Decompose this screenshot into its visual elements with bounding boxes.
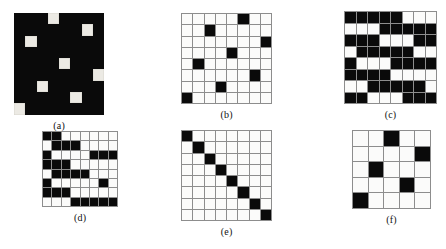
matrix-a-cell-8-1 [25,103,36,114]
matrix-d-cell-1-1 [52,141,61,150]
matrix-c-cell-6-1 [357,81,369,93]
matrix-d-cell-7-7 [109,198,118,207]
matrix-a-cell-3-5 [70,47,81,58]
matrix-b-cell-1-2 [205,25,216,36]
matrix-a-cell-1-0 [14,24,25,35]
panel-a: (a) [14,13,104,131]
matrix-e-cell-7-4 [227,210,238,221]
matrix-c-cell-1-2 [368,24,380,36]
matrix-a-cell-0-1 [25,13,36,24]
matrix-b-cell-5-2 [205,70,216,81]
matrix-c-cell-3-3 [380,47,392,59]
panel-c-caption: (c) [385,109,397,120]
matrix-a-cell-1-6 [82,24,93,35]
matrix-d-cell-6-5 [90,188,99,197]
matrix-c-cell-5-4 [391,70,403,82]
matrix-a-cell-6-7 [93,81,104,92]
matrix-c-cell-1-4 [391,24,403,36]
matrix-b-cell-3-2 [205,48,216,59]
matrix-c-cell-2-4 [391,35,403,47]
matrix-f-cell-1-1 [369,147,385,163]
matrix-e-cell-5-4 [227,187,238,198]
matrix-e-cell-1-2 [205,142,216,153]
matrix-c-cell-2-7 [426,35,438,47]
matrix-d-cell-7-5 [90,198,99,207]
matrix-a-cell-7-6 [82,92,93,103]
matrix-c-cell-5-7 [426,70,438,82]
matrix-d-cell-2-0 [43,151,52,160]
matrix-b-cell-7-4 [227,93,238,104]
matrix-b-cell-3-6 [250,48,261,59]
matrix-b-cell-3-7 [261,48,272,59]
matrix-e-cell-4-0 [182,176,193,187]
matrix-c-cell-3-6 [414,47,426,59]
matrix-a-cell-7-3 [48,92,59,103]
matrix-a-cell-0-3 [48,13,59,24]
matrix-c-cell-5-2 [368,70,380,82]
matrix-b-cell-6-1 [193,82,204,93]
matrix-c-cell-3-0 [345,47,357,59]
matrix-b-cell-4-7 [261,59,272,70]
matrix-d-cell-2-2 [62,151,71,160]
matrix-e-cell-5-7 [261,187,272,198]
matrix-d-cell-1-7 [109,141,118,150]
matrix-b-cell-7-5 [238,93,249,104]
matrix-d-cell-3-7 [109,160,118,169]
matrix-c-cell-0-4 [391,12,403,24]
matrix-b-cell-4-2 [205,59,216,70]
matrix-e-cell-2-4 [227,154,238,165]
matrix-f-cell-3-2 [384,178,400,194]
matrix-a-cell-6-6 [82,81,93,92]
matrix-c-cell-7-3 [380,93,392,105]
matrix-d-cell-5-7 [109,179,118,188]
matrix-f-cell-4-1 [369,193,385,209]
matrix-c-cell-4-5 [403,58,415,70]
matrix-a-cell-8-6 [82,103,93,114]
matrix-b-cell-0-6 [250,14,261,25]
matrix-f-cell-2-4 [415,162,431,178]
matrix-d-cell-3-3 [71,160,80,169]
matrix-b-cell-1-0 [182,25,193,36]
matrix-e-cell-3-3 [216,165,227,176]
matrix-b-cell-2-3 [216,37,227,48]
matrix-c-cell-7-6 [414,93,426,105]
matrix-b-cell-7-7 [261,93,272,104]
matrix-c-cell-1-5 [403,24,415,36]
matrix-a-cell-4-7 [93,58,104,69]
matrix-b-cell-3-0 [182,48,193,59]
matrix-c-cell-0-3 [380,12,392,24]
matrix-b-cell-7-0 [182,93,193,104]
matrix-d-cell-0-4 [81,132,90,141]
panel-e-caption: (e) [221,226,233,237]
matrix-e-cell-7-1 [193,210,204,221]
matrix-e-cell-6-0 [182,199,193,210]
matrix-b-cell-1-6 [250,25,261,36]
matrix-a-cell-7-0 [14,92,25,103]
matrix-d-cell-0-5 [90,132,99,141]
matrix-d-cell-4-5 [90,170,99,179]
matrix-a-cell-7-5 [70,92,81,103]
matrix-e [181,130,272,221]
matrix-b-cell-2-5 [238,37,249,48]
matrix-a-cell-2-7 [93,36,104,47]
matrix-e-cell-6-3 [216,199,227,210]
matrix-d-cell-0-3 [71,132,80,141]
matrix-a-cell-6-5 [70,81,81,92]
matrix-c-cell-1-0 [345,24,357,36]
matrix-e-cell-0-0 [182,131,193,142]
matrix-d-cell-4-7 [109,170,118,179]
matrix-a-cell-8-5 [70,103,81,114]
matrix-d-cell-5-5 [90,179,99,188]
matrix-c-cell-7-0 [345,93,357,105]
matrix-e-cell-5-3 [216,187,227,198]
matrix-d-cell-7-2 [62,198,71,207]
matrix-b-cell-1-4 [227,25,238,36]
matrix-e-cell-4-2 [205,176,216,187]
matrix-a-cell-3-2 [37,47,48,58]
panel-e: (e) [181,130,272,237]
matrix-d-cell-1-3 [71,141,80,150]
matrix-d-cell-7-1 [52,198,61,207]
matrix-b-cell-5-1 [193,70,204,81]
matrix-b-cell-0-5 [238,14,249,25]
matrix-d-cell-2-7 [109,151,118,160]
